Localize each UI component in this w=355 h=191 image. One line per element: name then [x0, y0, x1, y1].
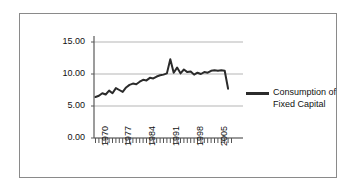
y-tick-label: 15.00 — [45, 36, 85, 46]
x-tick-label: 2005 — [219, 126, 229, 146]
y-tick-label: 10.00 — [45, 68, 85, 78]
chart-legend: Consumption of Fixed Capital — [246, 86, 338, 114]
x-tick-label: 1977 — [123, 126, 133, 146]
gridlines — [94, 42, 243, 138]
y-tick-label: 0.00 — [45, 132, 85, 142]
legend-swatch-consumption-of-fixed-capital — [246, 92, 269, 95]
x-tick-label: 1970 — [100, 126, 110, 146]
x-tick-label: 1991 — [171, 126, 181, 146]
x-tick-label: 1984 — [147, 126, 157, 146]
legend-label-line-1: Consumption of — [273, 86, 339, 98]
series-line-0 — [96, 59, 229, 97]
x-tick-label: 1998 — [195, 126, 205, 146]
x-axis-ticks — [96, 138, 232, 143]
legend-label-consumption-of-fixed-capital: Consumption of Fixed Capital — [273, 86, 339, 110]
axis-lines — [94, 36, 243, 138]
legend-label-line-2: Fixed Capital — [273, 98, 339, 110]
chart-figure: 15.0010.005.000.00 197019771984199119982… — [0, 0, 355, 191]
y-tick-label: 5.00 — [45, 100, 85, 110]
data-series-lines — [96, 59, 229, 97]
